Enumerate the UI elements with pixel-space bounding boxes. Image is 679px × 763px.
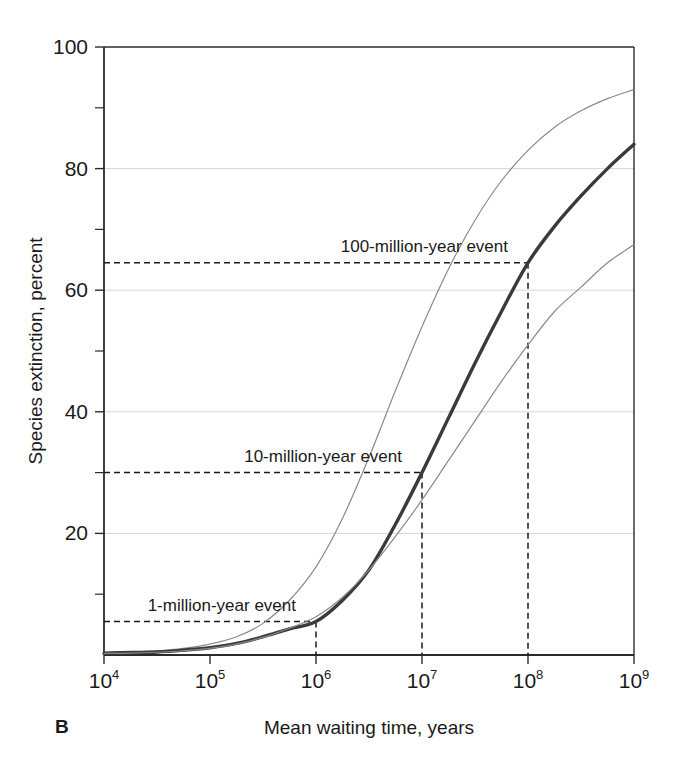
y-tick-label-60: 60 [65, 278, 88, 301]
y-axis-title: Species extinction, percent [25, 237, 46, 465]
x-axis-title: Mean waiting time, years [264, 717, 474, 738]
y-tick-label-80: 80 [65, 157, 88, 180]
annotation-label-0: 100-million-year event [341, 237, 509, 256]
figure-panel-b: 20406080100 104105106107108109 100-milli… [0, 0, 679, 763]
chart-background [0, 0, 679, 763]
y-tick-label-40: 40 [65, 400, 88, 423]
y-tick-label-20: 20 [65, 521, 88, 544]
panel-label: B [55, 716, 69, 737]
annotation-label-2: 1-million-year event [148, 596, 297, 615]
extinction-vs-waiting-time-chart: 20406080100 104105106107108109 100-milli… [0, 0, 679, 763]
y-tick-label-100: 100 [53, 35, 88, 58]
annotation-label-1: 10-million-year event [244, 447, 402, 466]
